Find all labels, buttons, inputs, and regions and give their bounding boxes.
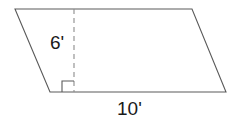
parallelogram-outline <box>15 9 226 92</box>
height-dimension-label: 6' <box>50 33 64 52</box>
base-dimension-label: 10' <box>117 99 142 118</box>
geometry-figure: 6' 10' <box>0 0 235 123</box>
